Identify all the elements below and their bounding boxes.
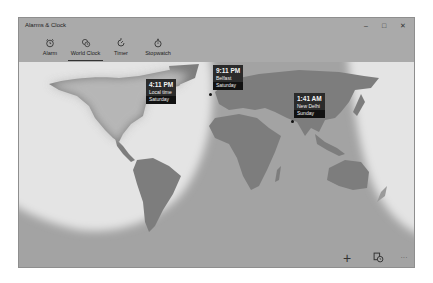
close-button[interactable]: ✕	[396, 21, 410, 31]
compare-button[interactable]	[370, 250, 386, 266]
clock-time: 4:11 PM	[149, 81, 173, 89]
tab-alarm[interactable]: Alarm	[39, 34, 61, 62]
tab-alarm-label: Alarm	[39, 50, 61, 56]
active-tab-indicator	[68, 60, 103, 62]
location-pin-belfast	[209, 93, 212, 96]
minimize-button[interactable]: –	[359, 21, 373, 31]
location-pin-new-delhi	[291, 120, 294, 123]
tab-bar: Alarm World Clock Timer	[19, 34, 414, 62]
clock-card-local[interactable]: 4:11 PM Local time Saturday	[146, 79, 176, 104]
tab-stopwatch-label: Stopwatch	[143, 50, 173, 56]
clock-place: New Delhi	[297, 103, 322, 110]
more-options-button[interactable]: ···	[396, 250, 412, 266]
clock-time: 1:41 AM	[297, 95, 322, 103]
world-clock-icon	[81, 38, 91, 48]
app-title: Alarms & Clock	[25, 22, 66, 28]
clock-card-new-delhi[interactable]: 1:41 AM New Delhi Sunday	[294, 93, 325, 118]
app-window: Alarms & Clock – □ ✕ Alarm World Clock	[18, 17, 415, 268]
clock-place: Belfast	[216, 75, 240, 82]
tab-world-clock-label: World Clock	[68, 50, 103, 56]
compare-icon	[373, 252, 384, 263]
clock-day: Saturday	[146, 96, 176, 104]
clock-day: Saturday	[213, 82, 243, 90]
clock-card-belfast[interactable]: 9:11 PM Belfast Saturday	[213, 65, 243, 90]
clock-place: Local time	[149, 89, 173, 96]
timer-icon	[116, 38, 126, 48]
title-bar: Alarms & Clock – □ ✕	[19, 18, 414, 34]
clock-day: Sunday	[294, 110, 325, 118]
alarm-clock-icon	[45, 38, 55, 48]
maximize-button[interactable]: □	[377, 21, 391, 31]
tab-world-clock[interactable]: World Clock	[68, 34, 103, 62]
day-night-map	[19, 62, 415, 268]
tab-timer[interactable]: Timer	[110, 34, 132, 62]
clock-time: 9:11 PM	[216, 67, 240, 75]
tab-stopwatch[interactable]: Stopwatch	[143, 34, 173, 62]
add-city-button[interactable]: +	[339, 250, 355, 266]
tab-timer-label: Timer	[110, 50, 132, 56]
world-map: 4:11 PM Local time Saturday 9:11 PM Belf…	[19, 62, 415, 268]
stopwatch-icon	[153, 38, 163, 48]
